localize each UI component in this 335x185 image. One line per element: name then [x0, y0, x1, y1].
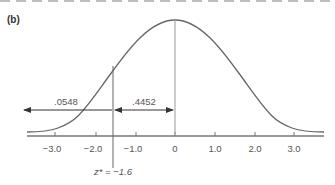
- tick-label: 3.0: [287, 143, 300, 154]
- tick-label: −2.0: [84, 143, 103, 154]
- tick-label: −1.0: [124, 143, 143, 154]
- left-area-label: .0548: [54, 96, 78, 107]
- tick-label: 2.0: [248, 143, 261, 154]
- mid-area-label: .4452: [132, 96, 156, 107]
- tick-label: 1.0: [208, 143, 221, 154]
- tick-label: −3.0: [43, 143, 62, 154]
- tick-label: 0: [172, 143, 177, 154]
- normal-curve-figure: .0548 .4452 −3.0 −2.0 −1.0 0 1.0 2.0 3.0…: [0, 0, 335, 185]
- zstar-label: z* = −1.6: [93, 166, 133, 177]
- x-tick-labels: −3.0 −2.0 −1.0 0 1.0 2.0 3.0: [43, 143, 301, 154]
